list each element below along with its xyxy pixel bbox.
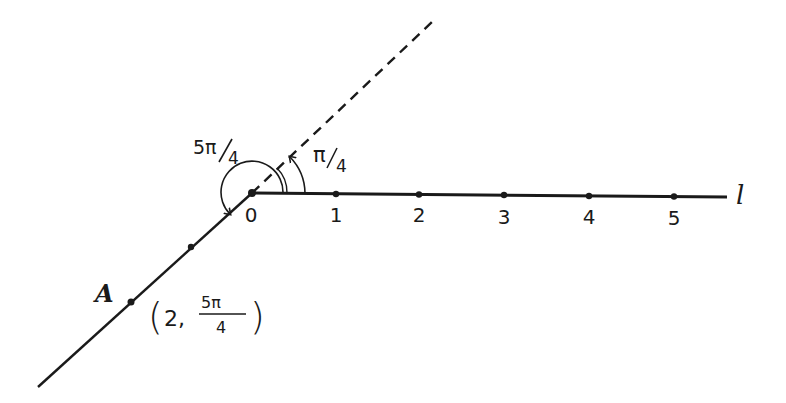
axis-label-l: l	[736, 180, 744, 210]
angle-arc-pi-over-4	[290, 157, 305, 193]
polar-axis	[252, 193, 727, 197]
polar-diagram: 0 1 2 3 4 5 l π 4 5π 4 A ( 2, 5π 4 )	[0, 0, 786, 403]
tick-label-1: 1	[330, 203, 343, 227]
angle-label-5pi-num: 5π	[193, 136, 217, 158]
coord-theta-num: 5π	[201, 293, 221, 312]
tick-point-2	[416, 191, 422, 197]
angle-arc-inner	[277, 168, 287, 193]
tick-point-3	[501, 192, 507, 198]
tick-point-1	[333, 191, 339, 197]
tick-label-3: 3	[498, 205, 511, 229]
coord-paren-open: (	[148, 294, 163, 338]
tick-label-2: 2	[413, 203, 426, 227]
tick-label-4: 4	[583, 205, 596, 229]
origin-point	[248, 189, 256, 197]
tick-point-5	[671, 193, 677, 199]
tick-label-5: 5	[668, 206, 681, 230]
coord-theta-den: 4	[216, 318, 226, 337]
ray-5pi-over-4	[38, 193, 252, 387]
origin-label: 0	[245, 203, 258, 227]
angle-label-pi-num: π	[313, 143, 326, 167]
point-A	[128, 299, 135, 306]
angle-label-pi-den: 4	[336, 156, 347, 176]
coord-r: 2,	[164, 306, 185, 331]
tick-point-4	[586, 193, 592, 199]
point-A-label: A	[93, 279, 114, 308]
coord-paren-close: )	[250, 294, 265, 338]
ray-point-1	[188, 244, 194, 250]
angle-label-5pi-den: 4	[228, 148, 239, 168]
